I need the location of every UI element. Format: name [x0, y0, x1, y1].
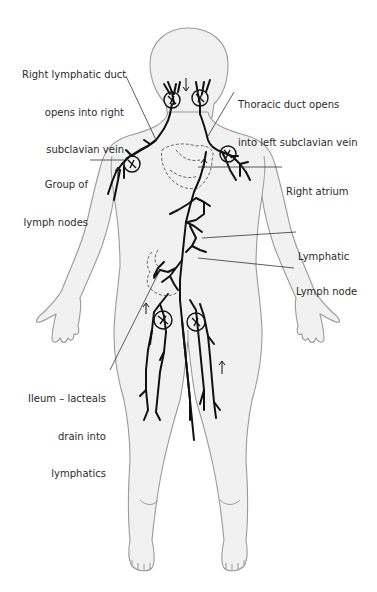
lymphatic-system-diagram: Right lymphatic duct opens into right su… — [0, 0, 377, 592]
head — [150, 28, 228, 118]
label-group-of-lymph-nodes: Group of lymph nodes — [20, 154, 88, 254]
label-right-atrium: Right atrium — [286, 161, 349, 224]
leader-right-lymphatic-duct — [126, 76, 156, 140]
label-ileum: Ileum – lacteals drain into lymphatics — [18, 368, 106, 506]
label-lymph-node: Lymph node — [296, 261, 357, 324]
label-thoracic-duct: Thoracic duct opens into left subclavian… — [238, 74, 358, 174]
